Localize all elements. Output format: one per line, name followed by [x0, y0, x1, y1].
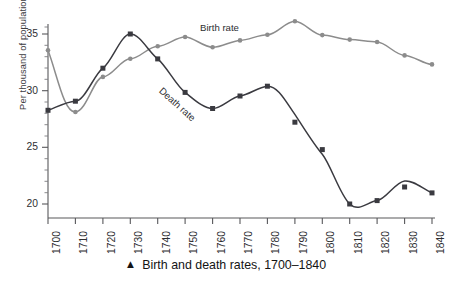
- x-tick-label-1840: 1840: [436, 231, 446, 254]
- figure-caption: ▲Birth and death rates, 1700–1840: [0, 258, 451, 272]
- figure-birth-and-death-rates: Per thousand of population: [0, 0, 451, 296]
- series-label-birth-rate: Birth rate: [199, 22, 240, 33]
- y-tick-label-25: 25: [16, 142, 38, 152]
- y-tick-label-30: 30: [16, 86, 38, 96]
- y-tick-label-35: 35: [16, 29, 38, 39]
- x-tick-label-1750: 1750: [189, 231, 199, 254]
- x-axis-ticks: [48, 218, 432, 224]
- x-tick-label-1820: 1820: [381, 231, 391, 254]
- x-tick-label-1770: 1770: [244, 231, 254, 254]
- x-tick-label-1790: 1790: [299, 231, 309, 254]
- caption-triangle-icon: ▲: [125, 259, 136, 271]
- x-tick-label-1710: 1710: [79, 231, 89, 254]
- x-tick-label-1740: 1740: [162, 231, 172, 254]
- caption-text: Birth and death rates, 1700–1840: [142, 258, 326, 272]
- x-tick-label-1700: 1700: [52, 231, 62, 254]
- x-tick-label-1720: 1720: [107, 231, 117, 254]
- x-tick-label-1730: 1730: [134, 231, 144, 254]
- series-line-death-rate: [48, 34, 432, 207]
- y-tick-label-20: 20: [16, 199, 38, 209]
- x-tick-label-1800: 1800: [326, 231, 336, 254]
- series-markers-death-rate: [46, 32, 435, 207]
- x-tick-label-1830: 1830: [409, 231, 419, 254]
- y-axis-major-ticks: [42, 34, 48, 204]
- x-tick-label-1760: 1760: [217, 231, 227, 254]
- x-tick-label-1810: 1810: [354, 231, 364, 254]
- x-tick-label-1780: 1780: [271, 231, 281, 254]
